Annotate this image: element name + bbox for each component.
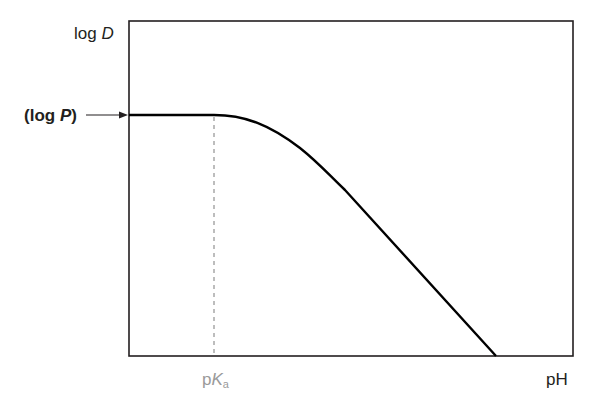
plot-frame [129,21,573,356]
x-axis-label: pH [546,370,568,389]
logp-arrow-head-icon [119,112,128,119]
log-d-curve [129,115,496,356]
chart: log D (log P) pKa pH [0,0,596,409]
y-axis-label: log D [74,24,114,43]
logp-label: (log P) [24,106,77,125]
pka-label: pKa [202,370,230,390]
